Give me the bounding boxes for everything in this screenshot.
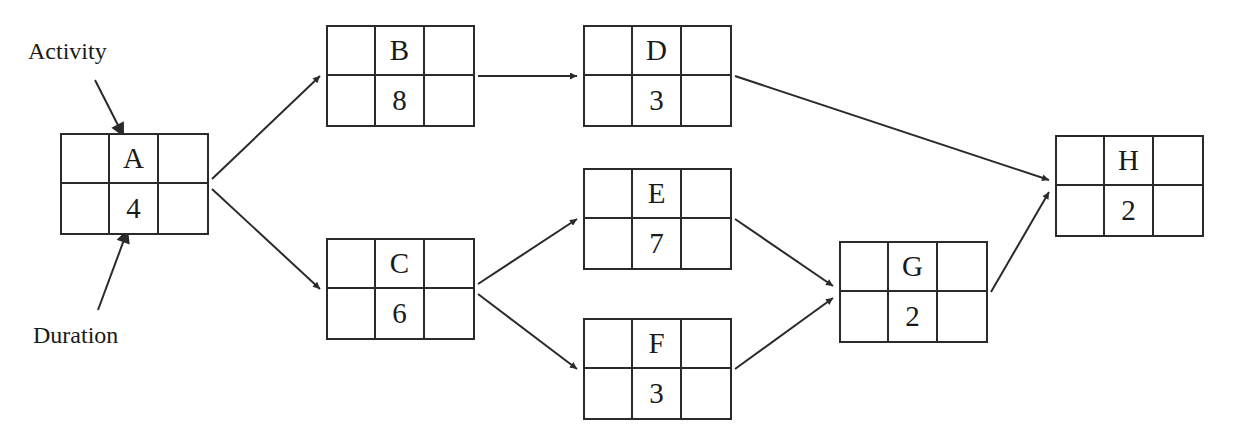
early-finish-cell [682, 320, 730, 369]
early-start-cell [328, 240, 376, 289]
late-start-cell [585, 219, 633, 268]
activity-node-g: G2 [839, 241, 988, 343]
activity-cell: E [633, 170, 681, 219]
activity-node-c: C6 [326, 238, 475, 340]
activity-cell: B [376, 27, 424, 76]
duration-cell: 3 [633, 369, 681, 418]
late-finish-cell [682, 219, 730, 268]
late-start-cell [841, 292, 889, 341]
early-start-cell [841, 243, 889, 292]
activity-node-f: F3 [583, 318, 732, 420]
early-finish-cell [425, 27, 473, 76]
edge-c-to-e-arrow [478, 219, 577, 284]
duration-cell: 3 [633, 76, 681, 125]
activity-cell: D [633, 27, 681, 76]
early-finish-cell [682, 27, 730, 76]
early-start-cell [1057, 137, 1105, 186]
late-start-cell [1057, 186, 1105, 235]
edge-a-to-b-arrow [212, 76, 320, 179]
activity-cell: G [889, 243, 937, 292]
edge-e-to-g-arrow [735, 219, 833, 286]
late-finish-cell [1154, 186, 1202, 235]
early-finish-cell [159, 135, 207, 184]
late-finish-cell [682, 369, 730, 418]
late-start-cell [328, 289, 376, 338]
early-start-cell [585, 320, 633, 369]
duration-cell: 4 [110, 184, 158, 233]
activity-cell: F [633, 320, 681, 369]
edge-c-to-f-arrow [478, 294, 577, 369]
edge-a-to-c-arrow [212, 189, 320, 289]
early-finish-cell [1154, 137, 1202, 186]
activity-node-h: H2 [1055, 135, 1204, 237]
duration-cell: 2 [1105, 186, 1153, 235]
early-start-cell [585, 170, 633, 219]
network-diagram: Activity Duration A4B8C6D3E7F3G2H2 [0, 0, 1236, 444]
activity-node-e: E7 [583, 168, 732, 270]
late-start-cell [585, 369, 633, 418]
late-finish-cell [425, 76, 473, 125]
late-finish-cell [938, 292, 986, 341]
activity-cell: H [1105, 137, 1153, 186]
activity-node-b: B8 [326, 25, 475, 127]
edge-d-to-h-arrow [735, 76, 1049, 180]
edge-g-to-h-arrow [991, 192, 1049, 292]
late-start-cell [328, 76, 376, 125]
activity-cell: A [110, 135, 158, 184]
duration-cell: 7 [633, 219, 681, 268]
early-finish-cell [682, 170, 730, 219]
early-start-cell [62, 135, 110, 184]
duration-callout-label: Duration [33, 322, 118, 349]
edge-f-to-g-arrow [735, 298, 833, 369]
early-start-cell [585, 27, 633, 76]
activity-cell: C [376, 240, 424, 289]
duration-cell: 6 [376, 289, 424, 338]
activity-callout-arrow [95, 80, 124, 137]
activity-callout-label: Activity [28, 38, 107, 65]
activity-node-d: D3 [583, 25, 732, 127]
duration-cell: 2 [889, 292, 937, 341]
late-finish-cell [425, 289, 473, 338]
late-finish-cell [159, 184, 207, 233]
late-start-cell [62, 184, 110, 233]
duration-callout-arrow [98, 229, 128, 310]
early-start-cell [328, 27, 376, 76]
duration-cell: 8 [376, 76, 424, 125]
activity-node-a: A4 [60, 133, 209, 235]
late-finish-cell [682, 76, 730, 125]
early-finish-cell [425, 240, 473, 289]
early-finish-cell [938, 243, 986, 292]
late-start-cell [585, 76, 633, 125]
